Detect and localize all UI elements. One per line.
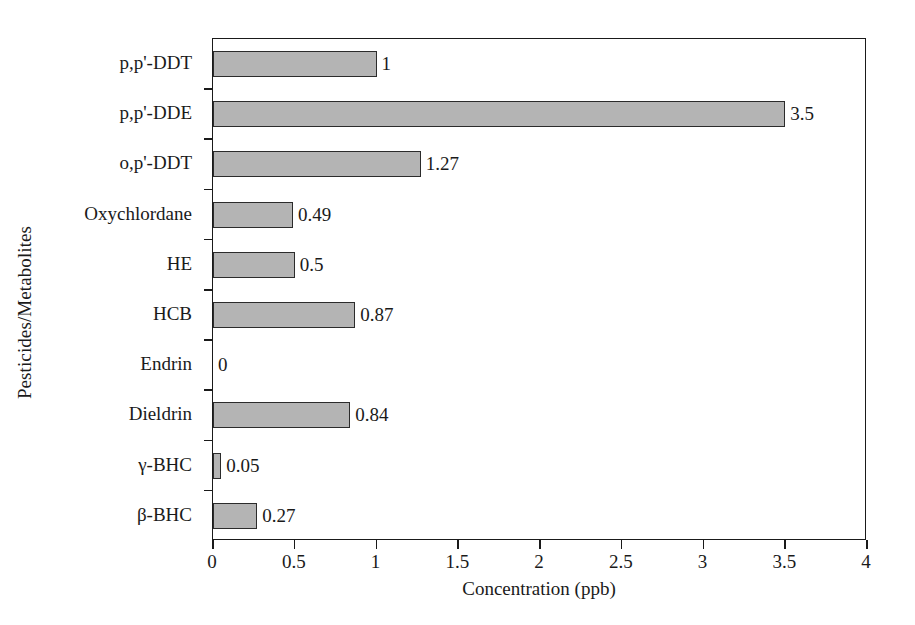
x-axis-tick [457, 540, 459, 549]
x-axis-tick [784, 540, 786, 549]
y-axis-tick [204, 88, 213, 90]
x-axis-tick-label: 1.5 [445, 551, 469, 573]
bar-row: 0.05 [213, 441, 865, 491]
y-axis-tick-label: p,p'-DDE [0, 100, 202, 126]
bar-value-label: 0.87 [355, 302, 393, 328]
bar-value-label: 0.27 [257, 503, 295, 529]
y-axis-tick [204, 440, 213, 442]
bar-row: 0.49 [213, 190, 865, 240]
y-axis-tick-label: Endrin [0, 351, 202, 377]
bar-value-label: 1.27 [421, 151, 459, 177]
y-axis-tick-label: β-BHC [0, 502, 202, 528]
bar[interactable] [213, 252, 295, 278]
bar[interactable] [213, 51, 377, 77]
x-axis-tick [294, 540, 296, 549]
bar[interactable] [213, 453, 221, 479]
y-axis-tick-label: HE [0, 251, 202, 277]
bar-row: 1 [213, 39, 865, 89]
bar-value-label: 1 [377, 51, 392, 77]
bar[interactable] [213, 402, 350, 428]
x-axis-title: Concentration (ppb) [212, 578, 866, 600]
bar-value-label: 0.49 [293, 202, 331, 228]
x-axis-tick-label: 2.5 [609, 551, 633, 573]
x-axis-tick-label: 0 [207, 551, 217, 573]
y-axis-tick [204, 239, 213, 241]
plot-area: 13.51.270.490.50.8700.840.050.27 [212, 38, 866, 540]
y-axis-tick [204, 339, 213, 341]
x-axis-tick-label: 0.5 [282, 551, 306, 573]
x-axis-tick-label: 2 [534, 551, 544, 573]
y-axis-tick-label: Dieldrin [0, 401, 202, 427]
x-axis-tick [539, 540, 541, 549]
x-axis-tick-label: 3 [698, 551, 708, 573]
bar-row: 0.87 [213, 290, 865, 340]
bar-row: 0.84 [213, 390, 865, 440]
y-axis-tick [204, 490, 213, 492]
x-axis-tick-label: 4 [861, 551, 871, 573]
x-axis-tick [703, 540, 705, 549]
x-axis-tick [621, 540, 623, 549]
y-axis-tick-label: p,p'-DDT [0, 50, 202, 76]
bar-value-label: 3.5 [785, 101, 814, 127]
bar-row: 3.5 [213, 89, 865, 139]
bar[interactable] [213, 151, 421, 177]
bar[interactable] [213, 101, 785, 127]
bar-value-label: 0.84 [350, 402, 388, 428]
y-axis-tick [204, 389, 213, 391]
bar[interactable] [213, 302, 355, 328]
x-axis-tick-label: 3.5 [772, 551, 796, 573]
bar-row: 0.27 [213, 491, 865, 541]
y-axis-tick [204, 289, 213, 291]
bar[interactable] [213, 202, 293, 228]
bar-row: 0.5 [213, 240, 865, 290]
x-axis-tick [866, 540, 868, 549]
bar-chart-figure: Pesticides/Metabolites 13.51.270.490.50.… [0, 0, 915, 625]
y-axis-tick [204, 189, 213, 191]
bar-value-label: 0.05 [221, 453, 259, 479]
bar-row: 1.27 [213, 139, 865, 189]
bar[interactable] [213, 503, 257, 529]
y-axis-tick-label: o,p'-DDT [0, 150, 202, 176]
bar-value-label: 0 [213, 352, 228, 378]
x-axis-tick [212, 540, 214, 549]
y-axis-tick [204, 138, 213, 140]
bar-row: 0 [213, 340, 865, 390]
y-axis-tick-label: Oxychlordane [0, 201, 202, 227]
y-axis-tick-label: HCB [0, 301, 202, 327]
y-axis-tick-label: γ-BHC [0, 452, 202, 478]
x-axis-tick-label: 1 [371, 551, 381, 573]
bar-value-label: 0.5 [295, 252, 324, 278]
x-axis-tick [376, 540, 378, 549]
